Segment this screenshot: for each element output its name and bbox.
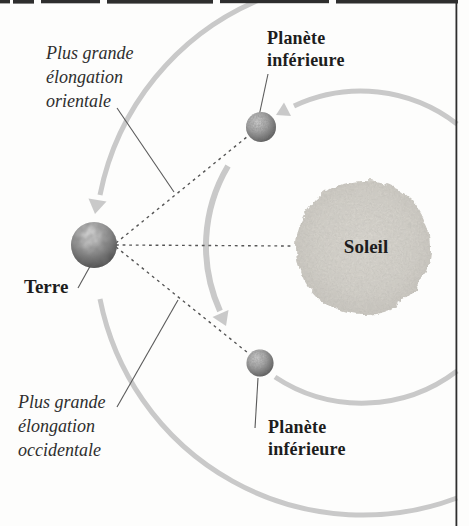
label-inferior-planet-bottom: Planète inférieure (268, 416, 346, 460)
pointer-planet-top (259, 74, 268, 116)
sightline-east-elongation (116, 136, 248, 243)
label-line: Planète (268, 416, 346, 438)
inferior-planet-bottom-texture (247, 350, 274, 377)
label-line: Plus grande (18, 390, 106, 414)
page-top-edge-seg (13, 0, 34, 4)
page-right-edge (456, 0, 458, 526)
label-sun: Soleil (336, 236, 396, 258)
inferior-orbit-arc-top (294, 91, 457, 124)
page-top-edge-seg (220, 0, 329, 3)
figure-canvas: Plus grande élongation orientale Planète… (0, 0, 469, 526)
label-line: occidentale (18, 438, 106, 462)
sightline-west-elongation (116, 247, 248, 353)
page-top-edge-seg (336, 0, 458, 4)
label-line: orientale (46, 89, 134, 113)
inferior-planet-top-texture (246, 112, 276, 142)
pointer-planet-bottom (255, 378, 258, 428)
inferior-orbit-arrow-left (213, 310, 229, 326)
pointer-west-elongation (117, 300, 178, 407)
label-greatest-eastern-elongation: Plus grande élongation orientale (46, 41, 134, 113)
page-top-edge-seg (0, 0, 10, 3)
label-line: Planète (267, 27, 345, 49)
page-top-edge-seg (107, 0, 213, 4)
earth-texture (71, 222, 117, 268)
pointer-east-elongation (117, 108, 174, 192)
inferior-orbit-arrow-top (276, 103, 291, 117)
earth-sphere (71, 222, 117, 268)
label-line: élongation (46, 65, 134, 89)
label-line: Plus grande (46, 41, 134, 65)
earth-orbit-arc-lower (100, 299, 457, 515)
inferior-orbit-arc-bottom (275, 371, 457, 403)
page-top-edge (0, 0, 458, 4)
inferior-planet-top-sphere (246, 112, 276, 142)
label-line: inférieure (267, 49, 345, 71)
inferior-orbit-arc-left (206, 166, 228, 311)
sightline-sun (116, 245, 292, 246)
inferior-planet-bottom-sphere (247, 350, 274, 377)
page-top-edge-seg (41, 0, 100, 3)
label-line: inférieure (268, 438, 346, 460)
label-line: élongation (18, 414, 106, 438)
earth-orbit-direction-arrow (89, 199, 107, 215)
label-earth: Terre (24, 276, 68, 298)
label-inferior-planet-top: Planète inférieure (267, 27, 345, 71)
label-greatest-western-elongation: Plus grande élongation occidentale (18, 390, 106, 462)
